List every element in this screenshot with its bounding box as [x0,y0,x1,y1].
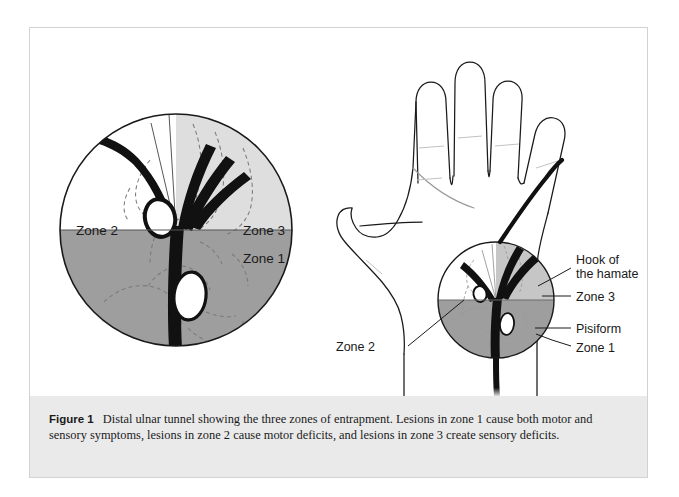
palmar-crease-distal [413,168,474,208]
web-3 [518,178,524,184]
left-zone-2-label: Zone 2 [76,223,118,238]
thenar-thumb-outline [337,208,405,354]
ulnar-nerve-proximal [496,358,497,396]
web-2 [488,171,490,177]
figure-caption-band: Figure 1 Distal ulnar tunnel showing the… [30,396,647,477]
ring-finger-outline [490,81,522,178]
callout-zone-3: Zone 3 [576,290,615,304]
callout-hook-of-hamate-line1: Hook of [576,253,620,267]
index-finger-outline [416,82,450,183]
callout-zone-1: Zone 1 [576,341,615,355]
leader-zone-1 [536,334,571,346]
figure-caption-text: Distal ulnar tunnel showing the three zo… [49,412,624,443]
figure-number-label: Figure 1 [49,412,94,428]
left-zone-3-label: Zone 3 [243,223,285,238]
left-zone-1-label: Zone 1 [243,251,285,266]
palm-radial-edge [351,102,416,237]
figure-caption: Figure 1 Distal ulnar tunnel showing the… [49,412,624,443]
wrist-inset-circle [438,242,556,360]
callout-zone-2: Zone 2 [336,340,375,354]
figure-frame: Zone 2 Zone 3 Zone 1 [29,27,648,478]
ulnar-nerve-to-little-finger [500,160,562,242]
callout-hook-of-hamate-line2: the hamate [576,267,639,281]
anatomy-illustration: Zone 2 Zone 3 Zone 1 [30,28,647,396]
figure-artwork: Zone 2 Zone 3 Zone 1 [30,28,647,396]
callout-pisiform: Pisiform [576,322,621,336]
thenar-crease [360,222,422,226]
middle-finger-outline [454,62,488,176]
